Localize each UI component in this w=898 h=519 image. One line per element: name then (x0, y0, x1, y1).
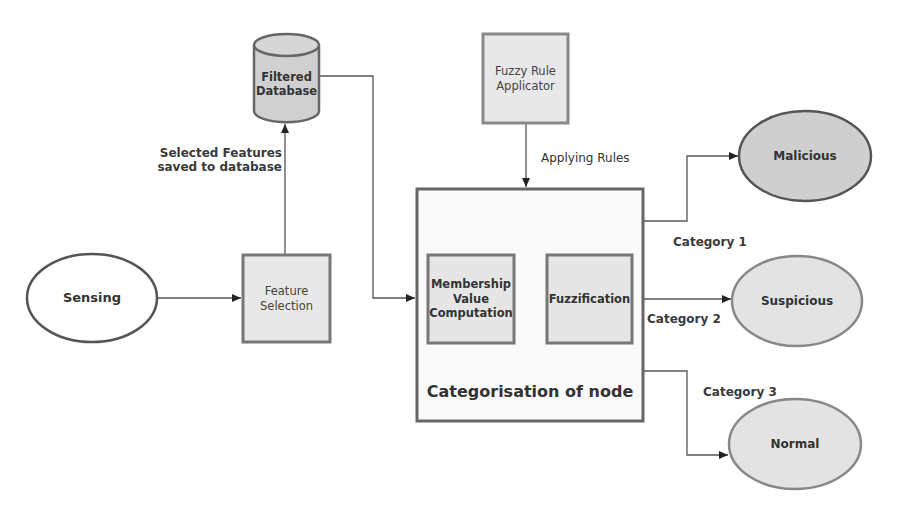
database-line2: Database (256, 84, 317, 98)
category-1-label: Category 1 (673, 235, 747, 249)
fuzzification-text: Fuzzification (549, 292, 630, 306)
membership-line2: Value (453, 292, 489, 306)
selected-features-label: Selected Features saved to database (146, 146, 282, 175)
membership-label: Membership Value Computation (428, 255, 514, 343)
feature-selection-line2: Selection (260, 299, 313, 313)
diagram-canvas: Sensing Feature Selection Filtered Datab… (0, 0, 898, 519)
fuzzy-rule-applicator-label: Fuzzy Rule Applicator (483, 34, 568, 123)
suspicious-label: Suspicious (732, 256, 862, 346)
suspicious-text: Suspicious (761, 294, 833, 309)
malicious-text: Malicious (773, 149, 836, 164)
categorisation-title: Categorisation of node (417, 375, 643, 409)
category-2-label: Category 2 (647, 312, 721, 326)
sensing-label: Sensing (27, 254, 157, 342)
edge-database-to-categorisation (320, 76, 415, 298)
edge-category1-to-malicious (643, 156, 738, 221)
database-line1: Filtered (261, 70, 312, 84)
fuzzification-label: Fuzzification (547, 255, 632, 343)
sensing-text: Sensing (63, 290, 121, 306)
membership-line3: Computation (429, 306, 513, 320)
category-3-label: Category 3 (703, 385, 777, 399)
membership-line1: Membership (431, 277, 511, 291)
selected-features-line2: saved to database (146, 160, 282, 174)
fuzzy-rule-line2: Applicator (496, 79, 555, 93)
normal-text: Normal (771, 437, 820, 452)
malicious-label: Malicious (739, 111, 871, 201)
edge-category3-to-normal (643, 371, 728, 455)
applying-rules-label: Applying Rules (541, 151, 630, 165)
normal-label: Normal (729, 399, 861, 489)
categorisation-text: Categorisation of node (427, 382, 633, 402)
filtered-database-label: Filtered Database (254, 62, 319, 106)
feature-selection-label: Feature Selection (243, 255, 330, 342)
fuzzy-rule-line1: Fuzzy Rule (495, 64, 556, 78)
feature-selection-line1: Feature (265, 284, 308, 298)
selected-features-line1: Selected Features (146, 146, 282, 160)
